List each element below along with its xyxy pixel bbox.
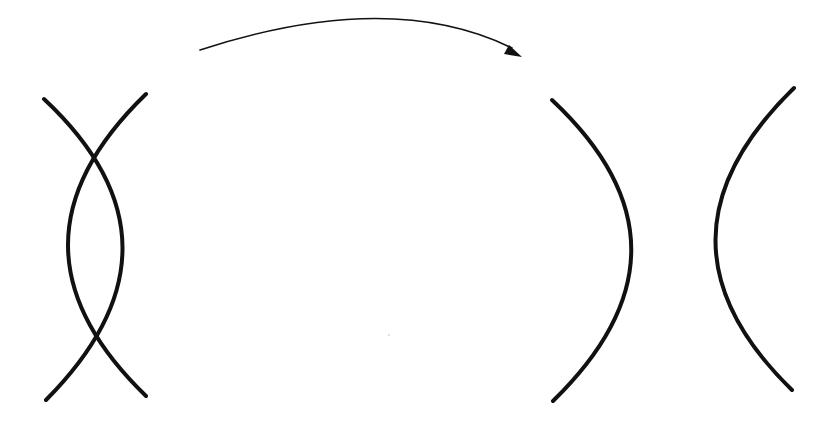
arrow-shaft: [200, 18, 512, 50]
intersecting-curves-group: [44, 94, 146, 400]
left-parenthesis-curve: [715, 88, 794, 390]
stray-dot: [388, 334, 390, 336]
transition-arrow: [200, 18, 522, 57]
separated-curves-group: [552, 88, 794, 401]
diagram-canvas: [0, 0, 830, 422]
diagram-svg: [0, 0, 830, 422]
arrowhead-icon: [504, 45, 522, 57]
right-parenthesis-curve: [552, 100, 631, 401]
